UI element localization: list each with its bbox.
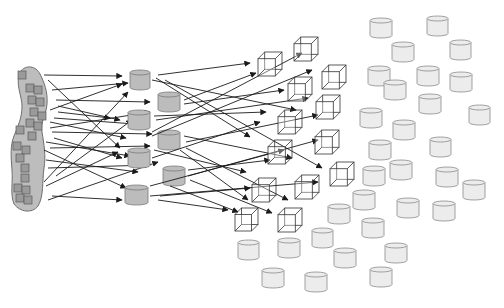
wireframe-cube-icon	[235, 208, 258, 231]
flow-arrow	[44, 75, 122, 76]
flow-arrow	[158, 63, 250, 75]
storage-cylinder-icon	[390, 160, 412, 180]
storage-cylinder-icon	[369, 140, 391, 160]
storage-cylinder-icon	[463, 180, 485, 200]
source-item-square	[34, 86, 42, 94]
flow-arrow	[50, 146, 150, 148]
storage-cylinder-icon	[278, 238, 300, 258]
storage-cylinder-icon	[370, 18, 392, 38]
source-item-square	[16, 126, 24, 134]
storage-cylinder-icon	[238, 240, 259, 260]
storage-cylinder-icon	[312, 228, 333, 248]
source-item-square	[28, 96, 36, 104]
source-item-square	[22, 146, 30, 154]
source-item-square	[16, 194, 24, 202]
wireframe-cube-icon	[268, 140, 292, 164]
flow-arrow	[58, 112, 110, 118]
storage-cylinder-icon	[305, 272, 327, 292]
source-item-square	[21, 164, 29, 172]
source-cluster	[11, 67, 47, 211]
storage-cylinder-icon	[436, 167, 458, 187]
flow-arrow	[44, 92, 128, 182]
gray-cylinder-icon	[130, 70, 150, 90]
storage-cylinder-icon	[370, 267, 392, 287]
storage-cylinder-icon	[384, 80, 406, 100]
wireframe-cube-icon	[295, 175, 319, 199]
wireframe-cube-icon	[315, 130, 339, 154]
storage-cylinder-icon	[392, 42, 414, 62]
wireframe-cube-icon	[278, 110, 302, 134]
storage-cylinder-icon	[450, 40, 471, 60]
wireframe-cube-icon	[330, 162, 354, 186]
source-item-square	[16, 154, 24, 162]
storage-cylinder-icon	[362, 218, 384, 238]
source-item-square	[14, 184, 22, 192]
wireframe-cube-icon	[316, 95, 340, 119]
flow-arrow	[50, 122, 126, 138]
gray-cylinder-icon	[158, 130, 180, 150]
diagram-canvas	[0, 0, 504, 308]
storage-cylinder-icon	[430, 137, 451, 157]
source-item-square	[18, 71, 26, 79]
source-item-square	[38, 112, 46, 120]
wireframe-cube-icon	[258, 52, 282, 76]
flow-arrow	[158, 200, 228, 210]
storage-cylinder-icon	[397, 198, 419, 218]
storage-cylinder-icon	[417, 66, 439, 86]
source-item-square	[24, 196, 32, 204]
source-item-square	[26, 119, 34, 127]
storage-cylinder-icon	[450, 72, 472, 92]
cube-group	[235, 37, 354, 232]
storage-cylinder-icon	[393, 120, 415, 140]
flow-arrow	[50, 84, 122, 110]
storage-cylinder-icon	[360, 108, 382, 128]
wireframe-cube-icon	[252, 178, 276, 202]
storage-cylinder-icon	[469, 105, 490, 125]
storage-cylinder-icon	[419, 94, 441, 114]
flow-arrow	[46, 142, 130, 156]
stage1-arrows	[44, 75, 158, 200]
source-item-square	[34, 122, 42, 130]
storage-cylinder-icon	[353, 190, 375, 210]
storage-cylinder-icon	[328, 204, 350, 224]
flow-arrow	[52, 196, 122, 200]
gray-cylinder-icon	[128, 110, 150, 130]
gray-cylinder-icon	[128, 148, 150, 168]
source-item-square	[21, 174, 29, 182]
storage-cylinder-icon	[262, 268, 284, 288]
flow-arrow	[48, 80, 120, 148]
storage-cylinder-icon	[363, 166, 385, 186]
source-item-square	[13, 142, 21, 150]
gray-cylinder-icon	[125, 185, 148, 205]
gray-cylinder-icon	[158, 92, 180, 112]
wireframe-cube-icon	[278, 208, 302, 232]
wireframe-cube-icon	[294, 37, 318, 61]
source-item-square	[28, 132, 36, 140]
source-item-square	[30, 108, 38, 116]
flow-arrow	[52, 83, 128, 90]
storage-cylinder-icon	[385, 243, 407, 263]
distributed-storage-diagram	[0, 0, 504, 308]
storage-cylinder-icon	[427, 16, 448, 36]
flow-arrow	[52, 132, 152, 134]
source-item-square	[26, 84, 34, 92]
storage-cylinder-icon	[433, 201, 455, 221]
source-item-square	[36, 98, 44, 106]
source-item-square	[22, 186, 30, 194]
storage-cylinder-icon	[334, 248, 356, 268]
wireframe-cube-icon	[322, 65, 346, 89]
wireframe-cube-icon	[288, 77, 312, 101]
gray-cylinder-icon	[163, 166, 185, 186]
